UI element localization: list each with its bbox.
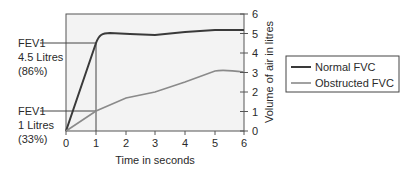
y-tick-label: 4 bbox=[252, 47, 258, 59]
x-tick-label: 3 bbox=[152, 137, 158, 149]
fev1-normal-percent: (86%) bbox=[18, 65, 47, 77]
legend: Normal FVC Obstructed FVC bbox=[286, 56, 399, 92]
x-axis bbox=[66, 131, 244, 135]
y-tick-label: 2 bbox=[252, 86, 258, 98]
fvc-chart: 6 5 4 3 2 1 0 0 1 2 3 4 5 6 Time in seco… bbox=[0, 0, 411, 172]
fev1-normal-volume: 4.5 Litres bbox=[18, 51, 64, 63]
y-tick-label: 6 bbox=[252, 8, 258, 20]
fev1-obstructed-percent: (33%) bbox=[18, 133, 47, 145]
x-tick-label: 0 bbox=[63, 137, 69, 149]
y-tick-label: 5 bbox=[252, 28, 258, 40]
y-tick-label: 1 bbox=[252, 106, 258, 118]
fev1-normal-label: FEV1 bbox=[18, 37, 46, 49]
x-tick-label: 4 bbox=[182, 137, 188, 149]
y-tick-label: 3 bbox=[252, 67, 258, 79]
y-tick-label: 0 bbox=[252, 125, 258, 137]
x-tick-label: 6 bbox=[241, 137, 247, 149]
x-axis-label: Time in seconds bbox=[115, 154, 195, 166]
fev1-obstructed-volume: 1 Litres bbox=[18, 119, 55, 131]
legend-label-normal: Normal FVC bbox=[315, 61, 376, 73]
x-tick-label: 2 bbox=[123, 137, 129, 149]
y-axis-label: Volume of air in litres bbox=[263, 20, 275, 123]
x-tick-label: 5 bbox=[212, 137, 218, 149]
x-tick-label: 1 bbox=[93, 137, 99, 149]
legend-label-obstructed: Obstructed FVC bbox=[315, 77, 394, 89]
fev1-obstructed-label: FEV1 bbox=[18, 105, 46, 117]
